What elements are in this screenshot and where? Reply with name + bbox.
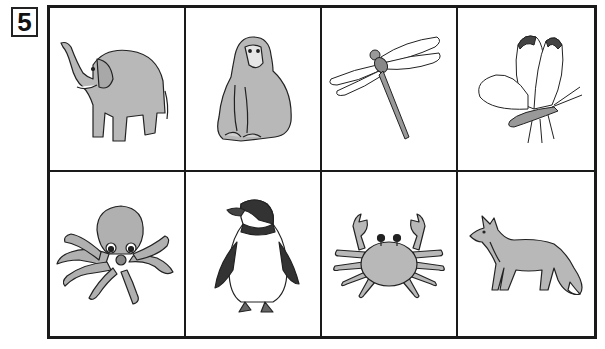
cell-elephant[interactable]: elephant [50, 8, 186, 172]
cell-crab[interactable]: crab [322, 172, 458, 336]
butterfly-icon [462, 25, 590, 153]
crab-icon [325, 190, 453, 318]
question-number: 5 [17, 9, 31, 35]
dragonfly-icon [325, 25, 453, 153]
cell-octopus[interactable]: octopus [50, 172, 186, 336]
elephant-icon [53, 25, 181, 153]
cell-fox[interactable]: fox [458, 172, 594, 336]
penguin-icon [189, 190, 317, 318]
cell-dragonfly[interactable]: dragonfly [322, 8, 458, 172]
monkey-icon [189, 25, 317, 153]
octopus-icon [53, 190, 181, 318]
cell-monkey[interactable]: monkey [186, 8, 322, 172]
animal-picture-grid: elephant monkey [47, 5, 597, 339]
cell-penguin[interactable]: penguin [186, 172, 322, 336]
fox-icon [462, 190, 590, 318]
cell-butterfly[interactable]: butterfly [458, 8, 594, 172]
question-number-box: 5 [11, 7, 38, 37]
